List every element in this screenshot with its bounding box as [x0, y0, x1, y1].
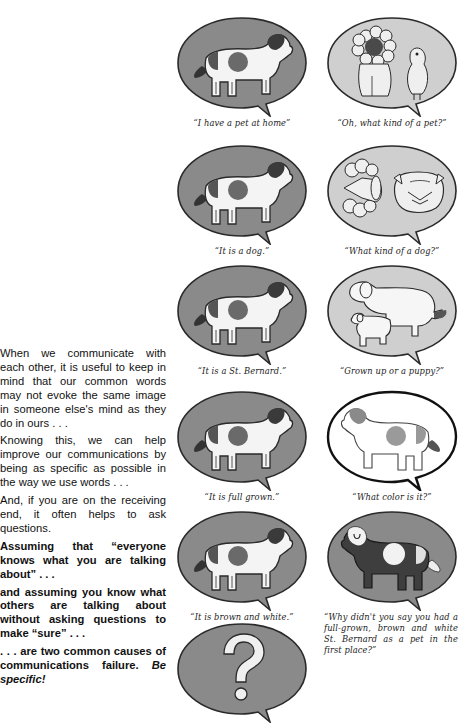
paragraph-conclusion: . . . are two common causes of communica…	[0, 645, 166, 687]
speech-bubble-dark-dog	[322, 508, 462, 611]
panel-8: “What color is it?”	[322, 388, 462, 502]
paragraph-assuming-everyone: Assuming that “everyone knows what you a…	[0, 540, 166, 582]
speech-bubble-lion-and-bird	[322, 14, 462, 117]
panel-11	[172, 620, 312, 723]
speech-bubble-spotted-dog	[172, 262, 312, 365]
speech-bubble-poodle-and-bulldog	[322, 142, 462, 245]
panel-3: “It is a dog.”	[172, 142, 312, 256]
speech-bubble-spotted-dog	[172, 388, 312, 491]
paragraph-knowing: Knowing this, we can help improve our co…	[0, 434, 166, 490]
panel-caption: “What color is it?”	[322, 492, 462, 502]
panel-5: “It is a St. Bernard.”	[172, 262, 312, 376]
explanatory-text: When we communicate with each other, it …	[0, 347, 166, 691]
panel-2: “Oh, what kind of a pet?”	[322, 14, 462, 128]
speech-bubble-dog-and-puppy	[322, 262, 462, 365]
paragraph-intro: When we communicate with each other, it …	[0, 347, 166, 430]
panel-1: “I have a pet at home”	[172, 14, 312, 128]
panel-6: “Grown up or a puppy?”	[322, 262, 462, 376]
speech-bubble-outlined-dog	[322, 388, 462, 491]
panel-caption: “What kind of a dog?”	[322, 246, 462, 256]
speech-bubble-spotted-dog	[172, 14, 312, 117]
paragraph-assuming-you-know: and assuming you know what others are ta…	[0, 586, 166, 642]
panel-caption: “Oh, what kind of a pet?”	[322, 118, 462, 128]
panel-caption: “It is full grown.”	[172, 492, 312, 502]
panel-caption: “I have a pet at home”	[172, 118, 312, 128]
paragraph-receiving: And, if you are on the receiving end, it…	[0, 494, 166, 536]
panel-7: “It is full grown.”	[172, 388, 312, 502]
conclusion-text: . . . are two common causes of communica…	[0, 645, 166, 671]
panel-caption: “Why didn't you say you had a full-grown…	[322, 612, 462, 656]
speech-bubble-question-mark	[172, 620, 312, 723]
panel-caption: “It is a St. Bernard.”	[172, 366, 312, 376]
panel-caption: “It is a dog.”	[172, 246, 312, 256]
panel-10: “Why didn't you say you had a full-grown…	[322, 508, 462, 656]
panel-9: “It is brown and white.”	[172, 508, 312, 622]
speech-bubble-spotted-dog	[172, 508, 312, 611]
panel-4: “What kind of a dog?”	[322, 142, 462, 256]
speech-bubble-spotted-dog	[172, 142, 312, 245]
panel-caption: “Grown up or a puppy?”	[322, 366, 462, 376]
